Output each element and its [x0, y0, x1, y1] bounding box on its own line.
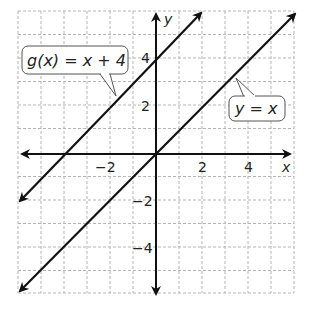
callout-y-equals-x: y = x — [229, 78, 285, 121]
callout-y-equals-x-text: y = x — [234, 99, 278, 118]
coordinate-plane: y x −2 2 4 4 2 −2 −4 g(x) = x + 4 y = x — [0, 0, 310, 315]
y-tick-neg2: −2 — [132, 193, 153, 209]
y-tick-neg4: −4 — [132, 240, 153, 256]
x-tick-2: 2 — [198, 159, 207, 175]
x-tick-4: 4 — [244, 159, 253, 175]
x-tick-neg2: −2 — [95, 159, 116, 175]
callout-g-x-text: g(x) = x + 4 — [27, 51, 126, 70]
callout-g-x: g(x) = x + 4 — [22, 46, 128, 96]
x-axis-label: x — [281, 159, 291, 175]
y-tick-2: 2 — [141, 98, 150, 114]
y-axis-label: y — [163, 11, 173, 27]
y-tick-4: 4 — [141, 50, 150, 66]
